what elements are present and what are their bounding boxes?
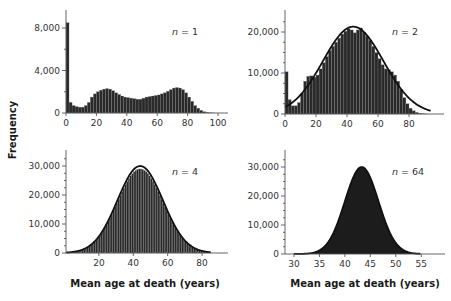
histogram-bar [160, 94, 163, 113]
histogram-bar [128, 179, 130, 253]
histogram-bar [102, 89, 105, 113]
histogram-bar [81, 107, 84, 113]
histogram-bar [175, 88, 178, 114]
histogram-bar [96, 92, 99, 113]
histogram-bar [72, 106, 75, 113]
histogram-bar [353, 33, 356, 114]
histogram-bar [133, 172, 135, 253]
histogram-bar [121, 96, 124, 113]
histogram-bar [175, 228, 177, 253]
histogram-bar [69, 102, 72, 113]
histogram-bar [347, 29, 350, 114]
distribution-fill [294, 167, 421, 254]
histogram-bar [130, 98, 133, 113]
y-tick-label: 20,000 [29, 190, 61, 200]
histogram-bar [381, 65, 384, 114]
y-tick-label: 4,000 [34, 66, 60, 76]
y-tick-label: 20,000 [248, 27, 280, 37]
x-tick-label: 55 [416, 259, 427, 269]
histogram-bar [359, 28, 362, 114]
histogram-bar [178, 233, 180, 253]
y-tick-label: 8,000 [34, 23, 60, 33]
histogram-bar [142, 98, 145, 113]
x-tick-label: 0 [63, 118, 69, 128]
histogram-bar [363, 32, 366, 114]
histogram-bar [332, 46, 335, 114]
histogram-bar [94, 242, 96, 253]
sample-size-annotation: n = 64 [392, 166, 424, 177]
histogram-bar [136, 99, 139, 113]
histogram-bar [169, 218, 171, 253]
histogram-bar [157, 192, 159, 253]
histogram-bar [115, 93, 118, 113]
histogram-bar [66, 23, 69, 113]
y-tick-label: 0 [54, 108, 60, 118]
histogram-bar [151, 96, 154, 113]
histogram-bar [338, 38, 341, 114]
y-tick-label: 0 [273, 109, 279, 119]
histogram-bar [372, 46, 375, 114]
histogram-bar [133, 99, 136, 113]
histogram-bar [93, 94, 96, 113]
histogram-bar [135, 170, 137, 253]
x-tick-label: 40 [121, 118, 133, 128]
histogram-bar [101, 233, 103, 253]
histogram-bar [356, 30, 359, 114]
histogram-bar [173, 225, 175, 253]
histogram-bar [171, 222, 173, 253]
histogram-bar [412, 111, 415, 114]
x-axis-title-left: Mean age at death (years) [70, 278, 219, 289]
y-tick-label: 0 [273, 249, 279, 259]
x-tick-label: 50 [390, 259, 402, 269]
histogram-bar [102, 231, 104, 253]
histogram-bar [166, 91, 169, 113]
histogram-bar [84, 106, 87, 113]
histogram-bar [120, 195, 122, 253]
histogram-bar [112, 91, 115, 113]
histogram-bar [154, 185, 156, 253]
histogram-bar [99, 236, 101, 253]
y-tick-label: 30,000 [248, 162, 280, 172]
x-tick-label: 80 [196, 258, 208, 268]
histogram-bar [111, 214, 113, 253]
sample-size-annotation: n = 4 [172, 166, 198, 177]
histogram-bar [163, 93, 166, 113]
histogram-bar [187, 243, 189, 253]
histogram-bar [106, 89, 109, 113]
histogram-bar [319, 69, 322, 114]
histogram-bars [294, 167, 421, 254]
histogram-bar [387, 70, 390, 114]
x-tick-label: 40 [339, 259, 351, 269]
histogram-bar [366, 36, 369, 114]
y-tick-label: 10,000 [29, 219, 61, 229]
histogram-bar [288, 100, 291, 114]
histogram-bar [123, 188, 125, 253]
histogram-bar [291, 106, 294, 114]
histogram-bar [335, 42, 338, 114]
histogram-bar [109, 89, 112, 113]
histogram-bar [121, 192, 123, 253]
x-tick-label: 20 [93, 258, 105, 268]
histogram-bar [152, 181, 154, 253]
histogram-bar [406, 104, 409, 114]
histogram-bar [118, 199, 120, 253]
histogram-bar [180, 236, 182, 253]
histogram-bar [156, 188, 158, 253]
histogram-bar [145, 97, 148, 113]
histogram-bar [294, 106, 297, 114]
histogram-bar [185, 93, 188, 113]
histogram-bar [161, 199, 163, 253]
histogram-bar [140, 169, 142, 253]
histogram-bar [90, 97, 93, 113]
histogram-bar [125, 185, 127, 253]
histogram-bar [106, 225, 108, 253]
histogram-bar [181, 238, 183, 253]
histogram-bar [176, 231, 178, 253]
histogram-bar [375, 53, 378, 115]
histogram-bar [301, 94, 304, 115]
histogram-bar [344, 31, 347, 114]
histogram-bar [113, 211, 115, 253]
figure: 04,0008,000020406080100n = 1 010,00020,0… [0, 0, 451, 301]
histogram-bar [316, 75, 319, 114]
histogram-bar [197, 108, 200, 113]
